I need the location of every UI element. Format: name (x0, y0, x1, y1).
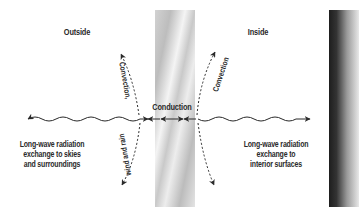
conduction-label: Conduction (146, 102, 198, 112)
longwave-inside-line-3: interior surfaces (237, 159, 316, 169)
longwave-outside-line-1: Long-wave radiation (13, 139, 92, 149)
longwave-outside-label: Long-wave radiation exchange to skies an… (4, 139, 100, 169)
longwave-inside-line-1: Long-wave radiation (237, 139, 316, 149)
longwave-outside-line-2: exchange to skies (13, 149, 92, 159)
inside-radiation-arrow (198, 117, 310, 121)
inside-convection-arrow-down (198, 123, 214, 185)
longwave-inside-label: Long-wave radiation exchange to interior… (228, 139, 324, 169)
inside-label: Inside (238, 27, 279, 37)
longwave-outside-line-3: and surroundings (13, 159, 92, 169)
outside-radiation-arrow (28, 117, 148, 121)
interior-wall (329, 10, 359, 207)
longwave-inside-line-2: exchange to (237, 149, 316, 159)
outside-label: Outside (57, 27, 98, 37)
